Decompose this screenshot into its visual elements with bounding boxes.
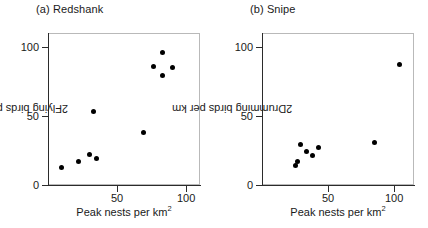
panel-a-x-ticklabel-50: 50 [111, 192, 123, 204]
panel-a-x-ticklabel-100: 100 [177, 192, 195, 204]
figure-scatter-pair: (a) Redshank Peak nests per km2 Flying b… [0, 0, 428, 228]
panel-a-y-axis-label-rotor: Flying birds per km2 [9, 63, 21, 156]
data-point [372, 140, 377, 145]
panel-b-x-ticklabel-100: 100 [385, 192, 403, 204]
panel-a-y-tick-50 [42, 116, 48, 117]
panel-b-title: (b) Snipe [250, 3, 296, 15]
panel-b-y-tick-0 [256, 185, 262, 186]
panel-b-y-axis-label-rotor: Drumming birds per km2 [223, 52, 235, 166]
panel-a-x-axis-label: Peak nests per km2 [48, 206, 200, 218]
panel-b-y-ticklabel-0: 0 [247, 179, 253, 191]
panel-b-x-ticklabel-50: 50 [322, 192, 334, 204]
data-point [170, 65, 175, 70]
panel-b-x-axis-label: Peak nests per km2 [262, 206, 414, 218]
panel-snipe: (b) Snipe Peak nests per km2 Drumming bi… [214, 0, 428, 228]
panel-b-y-ticklabel-100: 100 [235, 41, 253, 53]
data-point [59, 165, 64, 170]
panel-a-y-tick-100 [42, 47, 48, 48]
data-point [141, 130, 146, 135]
panel-a-x-axis-spine [48, 185, 201, 186]
panel-a-x-axis-label-superscript: 2 [167, 204, 171, 213]
panel-b-y-axis-label: Drumming birds per km2 [222, 33, 236, 185]
panel-a-title: (a) Redshank [36, 3, 103, 15]
panel-b-x-axis-label-text: Peak nests per km [290, 206, 381, 218]
panel-b-y-axis-label-text: Drumming birds per km [172, 103, 286, 115]
panel-a-y-ticklabel-100: 100 [21, 41, 39, 53]
panel-a-y-axis-label: Flying birds per km2 [8, 33, 22, 185]
panel-b-x-axis-spine [262, 185, 415, 186]
data-point [151, 64, 156, 69]
panel-b-y-tick-100 [256, 47, 262, 48]
data-point [76, 159, 81, 164]
panel-b-y-tick-50 [256, 116, 262, 117]
panel-a-y-ticklabel-0: 0 [33, 179, 39, 191]
panel-b-y-ticklabel-50: 50 [241, 110, 253, 122]
panel-a-x-axis-label-text: Peak nests per km [76, 206, 167, 218]
panel-a-y-ticklabel-50: 50 [27, 110, 39, 122]
panel-a-y-tick-0 [42, 185, 48, 186]
panel-b-x-axis-label-superscript: 2 [381, 204, 385, 213]
